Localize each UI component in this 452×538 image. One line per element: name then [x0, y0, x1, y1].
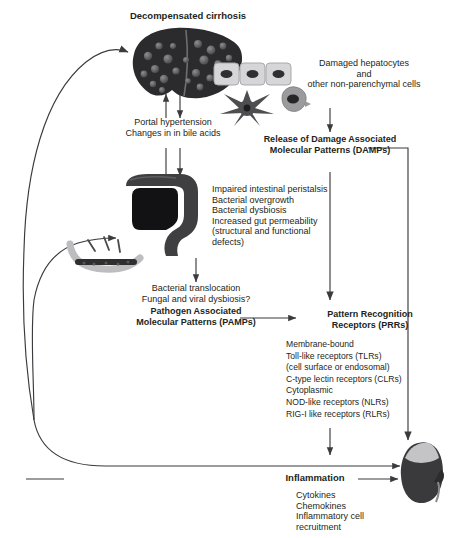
feedback-curve-outer-upper	[24, 50, 128, 250]
node-label-gut-effects: Impaired intestinal peristalsis Bacteria…	[212, 184, 382, 248]
node-label-inflammation: Inflammation	[270, 472, 360, 483]
node-label-portal-hypertension: Portal hypertension Changes in in bile a…	[98, 117, 248, 138]
node-label-damaged-cells: Damaged hepatocytes and other non-parenc…	[286, 58, 442, 90]
node-label-prrs-title: Pattern Recognition Receptors (PRRs)	[300, 309, 440, 330]
node-label-bacterial-translocation: Bacterial translocation Fungal and viral…	[104, 283, 288, 304]
node-label-decompensated-cirrhosis: Decompensated cirrhosis	[118, 10, 258, 21]
node-label-pamps: Pathogen Associated Molecular Patterns (…	[104, 306, 288, 327]
node-label-prrs-list: Membrane-bound Toll-like receptors (TLRs…	[286, 339, 452, 420]
node-label-damps: Release of Damage Associated Molecular P…	[258, 134, 402, 155]
node-label-inflammation-list: Cytokines Chemokines Inflammatory cell r…	[296, 490, 426, 532]
gut-bacteria-illustration	[62, 228, 146, 274]
diagram-canvas: Decompensated cirrhosis Damaged hepatocy…	[0, 0, 452, 538]
